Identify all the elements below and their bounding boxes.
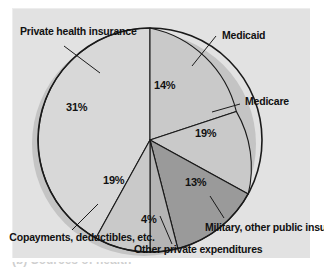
- pie-value-copayments-deductibles: 19%: [103, 174, 124, 186]
- pie-label-copayments-deductibles: Copayments, deductibles, etc.: [6, 232, 158, 244]
- pie-value-private-health-insurance: 31%: [66, 101, 87, 113]
- pie-value-military-other-public-insurance: 13%: [185, 176, 206, 188]
- figure-caption-text: (b) Sources of health: [12, 262, 212, 267]
- pie-value-medicare: 19%: [195, 127, 216, 139]
- figure-container: Private health insurance Copayments, ded…: [0, 0, 324, 275]
- pie-label-other-private-expenditures: Other private expenditures: [134, 244, 314, 256]
- pie-value-other-private-expenditures: 4%: [141, 213, 157, 225]
- pie-label-medicaid: Medicaid: [222, 30, 302, 42]
- pie-value-medicaid: 14%: [154, 79, 175, 91]
- figure-caption-cropped: (b) Sources of health: [12, 262, 212, 275]
- pie-label-military-other-public-insurance: Military, other public insurance: [205, 222, 309, 234]
- pie-label-private-health-insurance: Private health insurance: [20, 26, 130, 38]
- pie-label-medicare: Medicare: [245, 96, 315, 108]
